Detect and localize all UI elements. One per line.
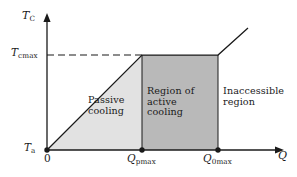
x-tick-q0max: Q0max xyxy=(203,153,232,165)
q0max-marker xyxy=(215,147,220,152)
cooling-regime-figure: TC Tcmax Ta 0 Qpmax Q0max Q Passive cool… xyxy=(0,0,297,177)
x-tick-qpmax-subscript: pmax xyxy=(136,157,156,166)
x-tick-qpmax: Qpmax xyxy=(127,153,156,165)
qpmax-marker xyxy=(139,147,144,152)
passive-cooling-label: Passive cooling xyxy=(88,95,140,116)
y-tick-ta: Ta xyxy=(24,142,36,154)
y-tick-ta-subscript: a xyxy=(31,146,35,155)
x-tick-origin: 0 xyxy=(44,153,51,165)
y-axis-title-subscript: C xyxy=(29,14,35,23)
y-tick-tcmax: Tcmax xyxy=(11,47,38,59)
y-tick-tcmax-subscript: cmax xyxy=(18,51,38,60)
active-cooling-label: Region of active cooling xyxy=(147,86,213,118)
x-tick-q0max-subscript: 0max xyxy=(212,157,232,166)
y-axis-title: TC xyxy=(22,10,35,22)
x-tick-q0max-base: Q xyxy=(203,152,212,164)
x-axis-title: Q xyxy=(278,150,287,162)
inaccessible-region-label: Inaccessible region xyxy=(223,86,289,107)
y-axis-arrowhead xyxy=(43,13,50,22)
x-tick-qpmax-base: Q xyxy=(127,152,136,164)
